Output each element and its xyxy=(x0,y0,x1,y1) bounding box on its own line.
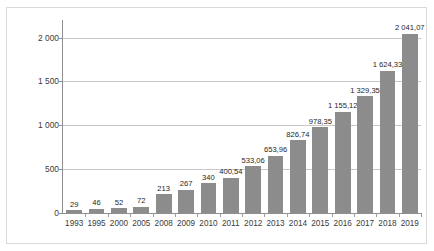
bar-value-label: 213 xyxy=(157,184,170,193)
x-tick-label: 1993 xyxy=(65,219,83,228)
x-tick-label: 2010 xyxy=(199,219,217,228)
x-tick-label: 2011 xyxy=(222,219,240,228)
bar[interactable]: 978,35 xyxy=(312,127,328,213)
bar-slot: 46 xyxy=(85,20,107,213)
bar[interactable]: 340 xyxy=(201,183,217,213)
bar[interactable]: 1 624,33 xyxy=(380,71,396,213)
x-tick-label: 2018 xyxy=(378,219,396,228)
x-tick-label: 2013 xyxy=(266,219,284,228)
x-tick-label: 2012 xyxy=(244,219,262,228)
bar[interactable]: 2 041,07 xyxy=(402,34,418,213)
x-axis-labels: 1993199520002005200820092010201120122013… xyxy=(63,216,421,232)
bar-value-label: 533,06 xyxy=(242,156,265,165)
bar-chart-figure: Umsatz in Mio. € 05001 0001 5002 000 294… xyxy=(0,0,434,251)
bar[interactable]: 533,06 xyxy=(245,166,261,213)
bar-value-label: 400,54 xyxy=(219,167,242,176)
bar[interactable]: 29 xyxy=(66,210,82,213)
bar-value-label: 29 xyxy=(70,200,78,209)
bar-slot: 826,74 xyxy=(287,20,309,213)
bar[interactable]: 653,96 xyxy=(268,156,284,213)
bar-series: 29465272213267340400,54533,06653,96826,7… xyxy=(63,20,421,213)
bar-slot: 72 xyxy=(130,20,152,213)
bar-value-label: 46 xyxy=(92,198,100,207)
bar-slot: 1 155,12 xyxy=(332,20,354,213)
bar-slot: 340 xyxy=(197,20,219,213)
bar[interactable]: 400,54 xyxy=(223,178,239,213)
bar-value-label: 72 xyxy=(137,196,145,205)
bar[interactable]: 267 xyxy=(178,190,194,213)
bar-value-label: 52 xyxy=(115,198,123,207)
bar-value-label: 978,35 xyxy=(309,117,332,126)
bar-slot: 29 xyxy=(63,20,85,213)
bar-slot: 213 xyxy=(153,20,175,213)
bar[interactable]: 213 xyxy=(156,194,172,213)
bar[interactable]: 826,74 xyxy=(290,140,306,213)
x-tick-label: 2016 xyxy=(334,219,352,228)
bar[interactable]: 46 xyxy=(89,209,105,213)
bar-value-label: 653,96 xyxy=(264,145,287,154)
bar-slot: 1 329,35 xyxy=(354,20,376,213)
bar-slot: 1 624,33 xyxy=(376,20,398,213)
bar-slot: 400,54 xyxy=(220,20,242,213)
y-tick-label: 2 000 xyxy=(38,33,59,43)
bar-value-label: 267 xyxy=(180,179,193,188)
y-tick-label: 500 xyxy=(45,164,59,174)
bar-slot: 653,96 xyxy=(264,20,286,213)
bar[interactable]: 52 xyxy=(111,208,127,213)
bar[interactable]: 1 155,12 xyxy=(335,112,351,213)
plot-area: 05001 0001 5002 000 29465272213267340400… xyxy=(63,20,421,213)
bar-value-label: 340 xyxy=(202,173,215,182)
y-tick-label: 1 500 xyxy=(38,76,59,86)
x-tick-label: 2005 xyxy=(132,219,150,228)
x-tick-label: 2008 xyxy=(155,219,173,228)
y-tick-label: 1 000 xyxy=(38,120,59,130)
bar-slot: 267 xyxy=(175,20,197,213)
bar-slot: 978,35 xyxy=(309,20,331,213)
y-tick-mark xyxy=(59,213,63,214)
bar-slot: 2 041,07 xyxy=(399,20,421,213)
x-tick-label: 2017 xyxy=(356,219,374,228)
x-tick-label: 2000 xyxy=(110,219,128,228)
bar-slot: 52 xyxy=(108,20,130,213)
bar[interactable]: 1 329,35 xyxy=(357,96,373,213)
x-tick-label: 2015 xyxy=(311,219,329,228)
x-tick-label: 1995 xyxy=(87,219,105,228)
bar[interactable]: 72 xyxy=(133,207,149,213)
x-tick-label: 2014 xyxy=(289,219,307,228)
x-tick-label: 2009 xyxy=(177,219,195,228)
x-tick-mark xyxy=(421,213,422,217)
bar-slot: 533,06 xyxy=(242,20,264,213)
bar-value-label: 2 041,07 xyxy=(395,23,425,32)
x-tick-label: 2019 xyxy=(401,219,419,228)
bar-value-label: 826,74 xyxy=(286,130,309,139)
